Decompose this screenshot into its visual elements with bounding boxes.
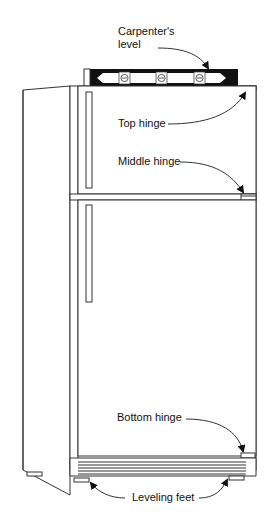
bubble-vial-left: [119, 72, 130, 84]
bubble-vial-center: [156, 72, 167, 84]
bottom-hinge: [241, 453, 255, 458]
label-carpenters-level-line2: level: [118, 38, 141, 50]
arrow-leveling-feet-left: [91, 483, 125, 498]
leveling-foot-rear: [27, 472, 42, 476]
cabinet-side: [23, 86, 70, 495]
label-carpenters-level-line1: Carpenter's: [118, 25, 175, 37]
label-bottom-hinge: Bottom hinge: [117, 411, 182, 423]
middle-hinge: [241, 194, 256, 200]
freezer-door-handle: [86, 92, 92, 188]
label-leveling-feet: Leveling feet: [132, 491, 194, 503]
arrow-carpenters-level: [158, 48, 208, 68]
carpenters-level: [84, 69, 238, 86]
leveling-foot-right: [229, 476, 244, 480]
leveling-foot-left: [74, 478, 89, 482]
bubble-vial-right: [194, 72, 205, 84]
label-top-hinge: Top hinge: [118, 117, 166, 129]
toe-grille: [70, 458, 256, 476]
fresh-food-door-handle: [86, 205, 92, 302]
freezer-door: [78, 86, 256, 194]
label-middle-hinge: Middle hinge: [118, 155, 180, 167]
refrigerator-diagram: [0, 0, 268, 529]
arrow-leveling-feet-right: [199, 480, 227, 498]
